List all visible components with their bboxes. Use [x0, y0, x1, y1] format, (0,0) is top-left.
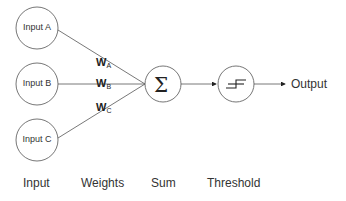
stage-input: Input: [23, 176, 50, 190]
input-b-label: Input B: [16, 78, 58, 88]
neuron-diagram: Input A Input B Input C WA WB WC Σ Outpu…: [0, 0, 346, 201]
sum-symbol: Σ: [154, 73, 168, 97]
output-label: Output: [291, 77, 327, 91]
input-c-label: Input C: [16, 134, 58, 144]
stage-threshold: Threshold: [207, 176, 260, 190]
weight-a: WA: [96, 56, 111, 69]
input-a-label: Input A: [16, 22, 58, 32]
weight-b: WB: [96, 77, 111, 90]
stage-weights: Weights: [81, 176, 124, 190]
stage-sum: Sum: [151, 176, 176, 190]
weight-c: WC: [96, 101, 111, 114]
